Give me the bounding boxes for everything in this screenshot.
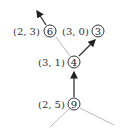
edge-4-6 — [56, 37, 70, 56]
svg-text:(3, 1): (3, 1) — [38, 57, 65, 68]
svg-text:4: 4 — [71, 57, 77, 68]
edge-6-up — [37, 11, 46, 25]
svg-text:(2, 3): (2, 3) — [13, 26, 40, 37]
svg-text:6: 6 — [47, 26, 53, 37]
svg-text:(2, 5): (2, 5) — [38, 99, 65, 110]
node-6: 6 (2, 3) — [13, 25, 56, 37]
node-3: 3 (3, 0) — [62, 25, 104, 37]
edge-9-lower-left — [50, 108, 70, 127]
node-9: 9 (2, 5) — [38, 98, 80, 110]
svg-text:3: 3 — [95, 26, 101, 37]
svg-text:(3, 0): (3, 0) — [62, 26, 89, 37]
node-4: 4 (3, 1) — [38, 56, 80, 68]
edge-9-lower-right — [80, 108, 114, 125]
svg-text:9: 9 — [71, 99, 77, 110]
edge-4-3 — [79, 40, 95, 56]
tree-diagram: 6 (2, 3) 3 (3, 0) 4 (3, 1) 9 (2, 5) — [0, 0, 123, 132]
